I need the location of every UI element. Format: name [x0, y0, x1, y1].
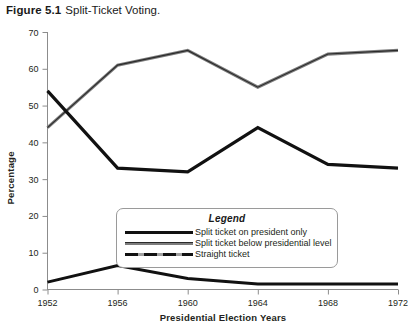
- series-straight-ticket: [48, 266, 399, 284]
- series-split-ticket-on-president-only: [48, 91, 399, 172]
- x-tick-label: 1964: [248, 298, 268, 308]
- legend-line-sample-straight-icon: [123, 249, 195, 260]
- y-tick-label: 60: [28, 64, 38, 74]
- chart-legend: Legend Split ticket on president only Sp…: [116, 208, 338, 268]
- x-tick-label: 1972: [388, 298, 408, 308]
- x-tick-label: 1956: [108, 298, 128, 308]
- legend-title: Legend: [117, 213, 337, 224]
- x-tick-label: 1952: [37, 298, 57, 308]
- y-axis-ticks: 010203040506070: [28, 28, 47, 296]
- y-axis-title: Percentage: [5, 151, 16, 204]
- legend-line-sample-president-icon: [123, 227, 195, 238]
- series-split-ticket-below-presidential-level-edge: [48, 50, 399, 127]
- figure-title: Split-Ticket Voting.: [65, 4, 160, 16]
- legend-label-president: Split ticket on president only: [195, 227, 307, 238]
- x-tick-label: 1960: [178, 298, 198, 308]
- legend-label-straight: Straight ticket: [195, 249, 250, 260]
- line-chart: 010203040506070 195219561960196419681972…: [0, 18, 408, 329]
- legend-item-split-ticket-on-president-only: Split ticket on president only: [123, 227, 337, 238]
- x-axis-ticks: 195219561960196419681972: [37, 290, 408, 308]
- y-tick-label: 20: [28, 211, 38, 221]
- legend-line-sample-below-icon: [123, 238, 195, 249]
- y-tick-label: 40: [28, 138, 38, 148]
- y-tick-label: 30: [28, 175, 38, 185]
- legend-item-split-ticket-below-presidential-level: Split ticket below presidential level: [123, 238, 337, 249]
- x-tick-label: 1968: [318, 298, 338, 308]
- y-tick-label: 70: [28, 28, 38, 38]
- figure-caption: Figure 5.1Split-Ticket Voting.: [6, 3, 160, 17]
- figure-number: Figure 5.1: [6, 4, 61, 16]
- y-tick-label: 10: [28, 248, 38, 258]
- y-tick-label: 0: [33, 285, 38, 295]
- x-axis-title: Presidential Election Years: [160, 312, 287, 323]
- series-split-ticket-below-presidential-level: [48, 50, 399, 127]
- legend-label-below: Split ticket below presidential level: [195, 238, 332, 249]
- legend-item-straight-ticket: Straight ticket: [123, 249, 337, 260]
- chart-container: 010203040506070 195219561960196419681972…: [0, 18, 408, 329]
- y-tick-label: 50: [28, 101, 38, 111]
- legend-entries: Split ticket on president only Split tic…: [117, 227, 337, 260]
